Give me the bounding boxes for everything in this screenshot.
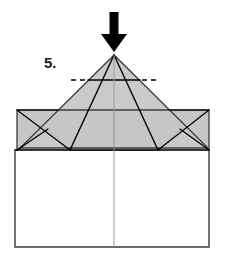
origami-step-diagram: 5.	[0, 0, 226, 263]
base-rectangle	[15, 150, 209, 247]
step-number-label: 5.	[44, 54, 57, 71]
diagram-canvas: 5.	[0, 0, 226, 263]
